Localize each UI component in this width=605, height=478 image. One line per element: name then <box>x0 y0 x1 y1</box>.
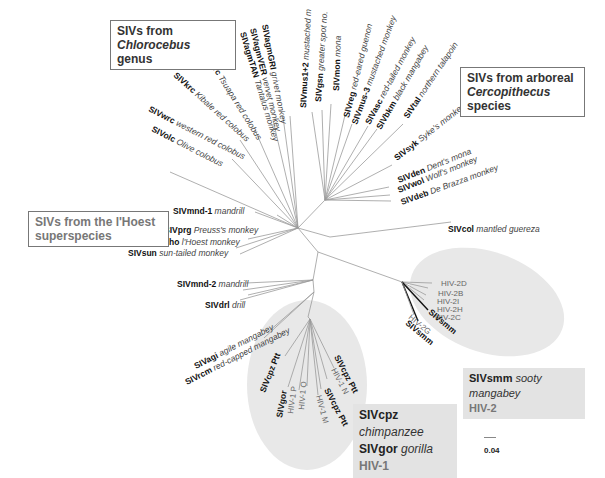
hiv2-clade-ellipse <box>395 228 580 377</box>
scale-bar <box>484 437 496 438</box>
legend-hiv1: SIVcpz chimpanzee SIVgor gorilla HIV-1 <box>353 404 457 478</box>
taxon-label: SIVmus1+2 mustached m <box>298 9 313 108</box>
taxon-label: SIVmnd-2 mandrill <box>177 279 249 289</box>
legend-hiv2: SIVsmm sooty mangabey HIV-2 <box>463 368 585 419</box>
title-box-lhoest: SIVs from the l'Hoest superspecies <box>28 211 169 247</box>
hiv2-taxon-label: HIV-2D <box>441 279 467 288</box>
labels-right: SIVsyk Syke's monkey SIVden Dent's mona … <box>392 101 540 234</box>
title-box-arboreal-cercopithecus: SIVs from arboreal Cercopithecus species <box>460 67 585 117</box>
taxon-label: SIVmnd-1 mandrill <box>173 206 245 216</box>
title-box-chlorocebus: SIVs from Chlorocebus genus <box>110 20 236 70</box>
taxon-label: SIVsun sun-tailed monkey <box>128 248 229 258</box>
taxon-label: SIVmon mona <box>331 35 343 91</box>
taxon-label: SIVdrl drill <box>205 300 246 310</box>
taxon-label: SIVcol mantled guereza <box>448 224 540 234</box>
taxon-label: SIVprg Preuss's monkey <box>164 225 259 235</box>
scale-bar-label: 0.04 <box>484 446 500 455</box>
taxon-label: SIVgsn greater spot no. <box>313 11 329 102</box>
